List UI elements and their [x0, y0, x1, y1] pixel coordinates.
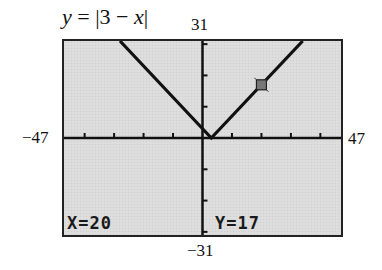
- xmax-label: 47: [348, 129, 365, 149]
- trace-cursor-icon: [254, 78, 268, 92]
- axes: [64, 41, 341, 235]
- title-close: |: [144, 4, 148, 29]
- y-readout: Y=17: [215, 213, 260, 233]
- title-lhs: y: [62, 4, 72, 29]
- graph-plot: [64, 41, 341, 235]
- function-curve: [120, 41, 303, 138]
- xmin-label: −47: [22, 128, 49, 148]
- title-var: x: [134, 4, 144, 29]
- ymin-label: −31: [187, 241, 214, 261]
- x-readout: X=20: [67, 213, 112, 233]
- calculator-screen: X=20 Y=17: [62, 39, 343, 237]
- ymax-label: 31: [191, 15, 208, 35]
- title-equals: = |3 −: [72, 4, 134, 29]
- function-title: y = |3 − x|: [62, 4, 148, 30]
